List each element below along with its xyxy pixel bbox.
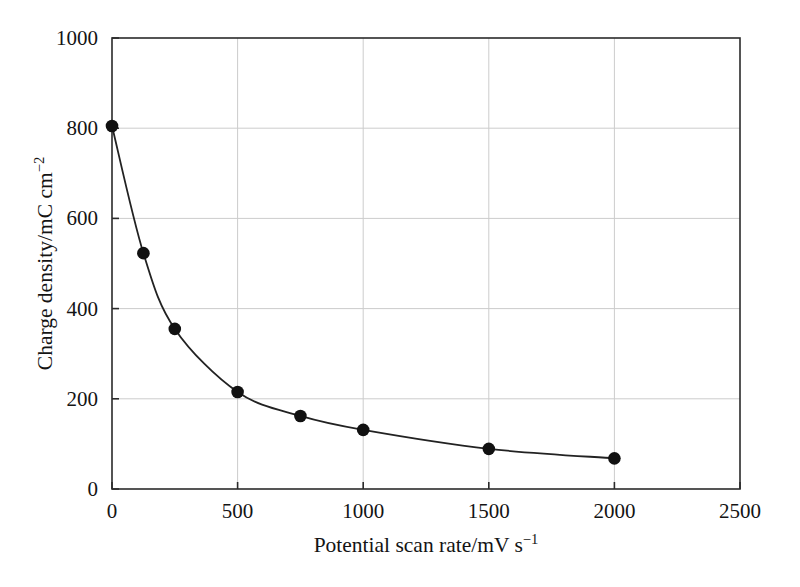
- x-axis-title-base: Potential scan rate/mV s: [314, 533, 523, 557]
- y-axis-tick-label: 400: [0, 298, 98, 319]
- x-axis-title-exponent: −1: [523, 531, 539, 547]
- y-axis-tick-label: 1000: [0, 28, 98, 49]
- x-axis-tick-label: 1500: [468, 501, 510, 522]
- data-point-marker: [231, 386, 244, 399]
- x-axis-tick-label: 500: [222, 501, 254, 522]
- y-axis-title-base: Charge density/mC cm: [33, 172, 57, 370]
- x-axis-tick-label: 1000: [342, 501, 384, 522]
- y-axis-tick-label: 600: [0, 208, 98, 229]
- data-point-marker: [294, 410, 307, 423]
- data-point-marker: [608, 452, 621, 465]
- data-point-marker: [106, 120, 119, 133]
- data-point-marker: [483, 443, 496, 456]
- plot-area: [112, 38, 740, 489]
- y-axis-title: Charge density/mC cm−2: [30, 38, 60, 489]
- series-line: [112, 126, 614, 458]
- data-point-marker: [137, 247, 150, 260]
- x-axis-tick-label: 0: [107, 501, 118, 522]
- data-series: [112, 38, 740, 489]
- y-axis-tick-label: 0: [0, 479, 98, 500]
- x-axis-tick-label: 2500: [719, 501, 761, 522]
- y-axis-tick-label: 800: [0, 118, 98, 139]
- chart-figure: Charge density/mC cm−2 Potential scan ra…: [0, 0, 800, 587]
- data-point-marker: [357, 424, 370, 437]
- y-axis-title-exponent: −2: [31, 157, 47, 173]
- x-axis-tick-label: 2000: [593, 501, 635, 522]
- data-point-marker: [169, 323, 182, 336]
- y-axis-tick-label: 200: [0, 388, 98, 409]
- x-axis-title: Potential scan rate/mV s−1: [112, 535, 740, 557]
